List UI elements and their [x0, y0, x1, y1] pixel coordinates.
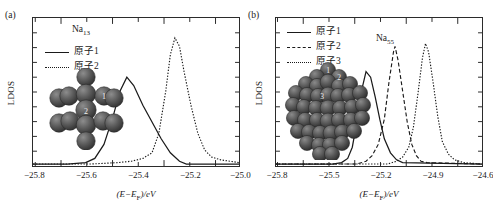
panel-a-bottom-ticks [35, 160, 215, 166]
panel-b-legend-item-atom1: 原子1 [287, 24, 341, 39]
panel-a-y-axis-label: LDOS [6, 73, 16, 113]
panel-a-left-ticks [33, 33, 37, 151]
panel-a-right-ticks [235, 33, 239, 151]
na55-cluster-graphic: 1 2 3 [280, 62, 376, 160]
na13-atom-label-2: 2 [84, 107, 88, 116]
panel-b-xtick-2: −25.2 [371, 170, 392, 180]
panel-b-x-axis-label: (E−EF)/eV [275, 189, 483, 202]
panel-b-legend-item-atom2: 原子2 [287, 39, 341, 54]
na55-atom-label-2: 2 [337, 73, 341, 82]
panel-b-right-ticks [478, 33, 482, 151]
panel-b-y-axis-label: LDOS [254, 73, 264, 113]
panel-b-xtick-0: −25.8 [267, 170, 288, 180]
panel-a-xlabel-prefix: (E−E [117, 189, 137, 199]
dashed-line-icon [287, 42, 311, 52]
panel-b-tag: (b) [248, 10, 259, 20]
na13-atom-label-1: 1 [102, 92, 106, 101]
panel-a-species-symbol: Na [72, 24, 83, 34]
panel-a-xtick-0: −25.8 [24, 170, 45, 180]
panel-b-xlabel-suffix: )/eV [383, 189, 398, 199]
panel-a-x-axis-label: (E−EF)/eV [32, 189, 240, 202]
panel-b-xtick-4: −24.6 [473, 170, 493, 180]
panel-b-species-label: Na55 [376, 33, 394, 46]
panel-a-xlabel-suffix: )/eV [140, 189, 155, 199]
na13-cluster-graphic: 1 2 [44, 68, 128, 150]
panel-b-species-count: 55 [387, 38, 394, 46]
panel-b-xlabel-prefix: (E−E [360, 189, 380, 199]
panel-a-species-count: 13 [83, 29, 90, 37]
solid-line-icon [45, 47, 69, 57]
panel-a-xtick-1: −25.6 [76, 170, 97, 180]
panel-a: (a) LDOS [0, 0, 245, 211]
panel-b: (b) LDOS [246, 0, 491, 211]
na55-atom-label-3: 3 [320, 92, 324, 101]
panel-b-cluster-inset-na55: 1 2 3 [280, 62, 376, 160]
solid-line-icon [287, 27, 311, 37]
panel-a-top-ticks [35, 18, 215, 24]
panel-a-species-label: Na13 [72, 24, 90, 37]
panel-b-legend-label-atom2: 原子2 [316, 42, 341, 52]
panel-a-xtick-3: −25.2 [180, 170, 201, 180]
panel-a-xtick-2: −25.4 [128, 170, 149, 180]
panel-b-xtick-3: −24.9 [423, 170, 444, 180]
panel-b-species-symbol: Na [376, 33, 387, 43]
panel-a-legend-label-atom1: 原子1 [74, 47, 99, 57]
panel-a-cluster-inset-na13: 1 2 [44, 68, 128, 150]
panel-a-legend-item-atom1: 原子1 [45, 44, 99, 59]
na55-atom-label-1: 1 [326, 66, 330, 75]
panel-a-tag: (a) [5, 10, 16, 20]
panel-b-legend-label-atom1: 原子1 [316, 27, 341, 37]
panel-b-xtick-1: −25.5 [319, 170, 340, 180]
